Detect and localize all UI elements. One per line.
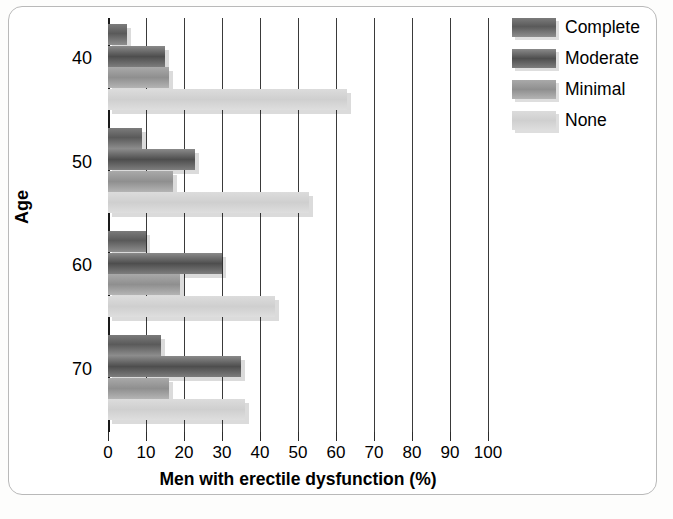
bar-none-age-40 xyxy=(108,89,347,110)
legend-item-moderate[interactable]: Moderate xyxy=(512,45,662,72)
legend-label-none: None xyxy=(565,110,607,131)
y-tick-label-60: 60 xyxy=(72,255,92,276)
x-tick-label-90: 90 xyxy=(441,443,460,463)
legend-item-minimal[interactable]: Minimal xyxy=(512,76,662,103)
bar-complete-age-60 xyxy=(108,231,146,252)
legend-item-complete[interactable]: Complete xyxy=(512,14,662,41)
x-tick-90 xyxy=(450,432,451,441)
chart-figure: 40506070 Age 0102030405060708090100 Men … xyxy=(0,0,673,519)
bar-complete-age-40 xyxy=(108,24,127,45)
bar-minimal-age-70 xyxy=(108,378,169,399)
plot-area: 0102030405060708090100 xyxy=(108,18,488,432)
bar-complete-age-70 xyxy=(108,335,161,356)
x-tick-label-20: 20 xyxy=(175,443,194,463)
x-tick-20 xyxy=(184,432,185,441)
x-tick-label-60: 60 xyxy=(327,443,346,463)
x-tick-60 xyxy=(336,432,337,441)
x-tick-0 xyxy=(108,432,109,441)
bar-moderate-age-60 xyxy=(108,253,222,274)
x-tick-label-100: 100 xyxy=(474,443,502,463)
x-tick-100 xyxy=(488,432,489,441)
y-tick-label-40: 40 xyxy=(72,48,92,69)
bar-minimal-age-60 xyxy=(108,274,180,295)
bar-moderate-age-70 xyxy=(108,356,241,377)
x-tick-50 xyxy=(298,432,299,441)
x-tick-70 xyxy=(374,432,375,441)
x-tick-30 xyxy=(222,432,223,441)
bar-minimal-age-40 xyxy=(108,67,169,88)
bar-minimal-age-50 xyxy=(108,171,173,192)
x-tick-40 xyxy=(260,432,261,441)
bar-group-age-50 xyxy=(108,128,488,226)
bar-moderate-age-50 xyxy=(108,149,195,170)
bar-group-age-60 xyxy=(108,231,488,329)
x-tick-label-50: 50 xyxy=(289,443,308,463)
bar-none-age-70 xyxy=(108,399,245,420)
x-axis-title: Men with erectile dysfunction (%) xyxy=(108,469,488,490)
y-axis-title: Age xyxy=(12,190,33,224)
y-tick-label-70: 70 xyxy=(72,358,92,379)
legend-swatch-minimal xyxy=(512,80,556,99)
x-tick-label-40: 40 xyxy=(251,443,270,463)
legend-label-minimal: Minimal xyxy=(565,79,625,100)
legend-swatch-none xyxy=(512,111,556,130)
legend-swatch-moderate xyxy=(512,49,556,68)
legend: CompleteModerateMinimalNone xyxy=(512,14,662,138)
bar-none-age-50 xyxy=(108,192,309,213)
x-tick-label-80: 80 xyxy=(403,443,422,463)
x-tick-label-0: 0 xyxy=(103,443,112,463)
y-tick-label-50: 50 xyxy=(72,151,92,172)
x-tick-label-10: 10 xyxy=(137,443,156,463)
x-tick-80 xyxy=(412,432,413,441)
x-tick-label-70: 70 xyxy=(365,443,384,463)
bar-group-age-40 xyxy=(108,24,488,122)
bar-complete-age-50 xyxy=(108,128,142,149)
legend-swatch-complete xyxy=(512,18,556,37)
legend-item-none[interactable]: None xyxy=(512,107,662,134)
x-tick-10 xyxy=(146,432,147,441)
gridline-100 xyxy=(488,18,489,432)
bar-none-age-60 xyxy=(108,296,275,317)
legend-label-moderate: Moderate xyxy=(565,48,639,69)
y-axis-tick-labels: 40506070 xyxy=(0,18,104,432)
x-tick-label-30: 30 xyxy=(213,443,232,463)
bar-moderate-age-40 xyxy=(108,46,165,67)
legend-label-complete: Complete xyxy=(565,17,640,38)
bar-group-age-70 xyxy=(108,335,488,433)
